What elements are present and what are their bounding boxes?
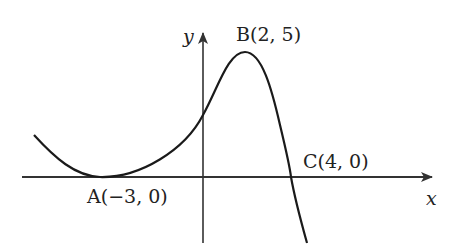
graph-canvas: y x B(2, 5) A(−3, 0) C(4, 0) (0, 0, 454, 249)
point-c-label: C(4, 0) (303, 150, 369, 172)
x-axis-label: x (426, 187, 437, 209)
function-curve (34, 52, 307, 243)
point-a-label: A(−3, 0) (86, 185, 168, 207)
point-b-label: B(2, 5) (236, 23, 301, 45)
y-axis-label: y (182, 25, 194, 47)
